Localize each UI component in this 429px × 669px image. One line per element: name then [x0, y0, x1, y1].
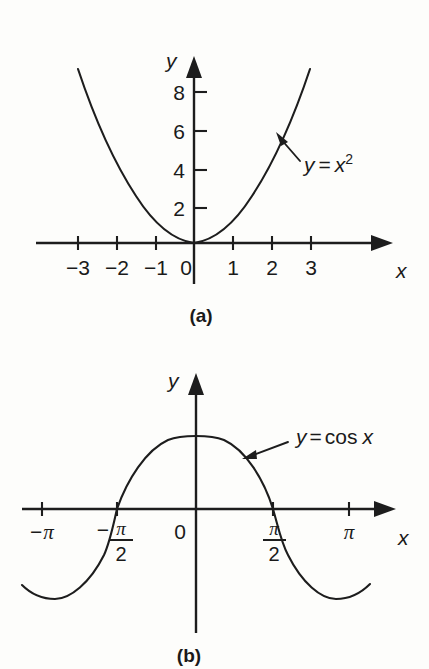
chart-a-svg: y=x2 y x −3 −2 −1 0 1 2 3 2 4 6 8 (a) [0, 26, 429, 326]
svg-text:−: − [97, 518, 109, 541]
y-axis-label-b: y [166, 369, 180, 392]
y-axis-arrowhead-b [188, 373, 204, 395]
y-ticklabel-6-a: 6 [173, 120, 185, 143]
chart-b-svg: y=cosx y x −π − π 2 0 π 2 π [0, 340, 429, 669]
y-ticklabel-2-a: 2 [173, 197, 185, 220]
x-ticklabel-1-a: 1 [227, 256, 239, 279]
x-axis-arrowhead-b [374, 501, 396, 517]
x-ticklabel--2-a: −2 [105, 256, 129, 279]
figure-b-cosine: y=cosx y x −π − π 2 0 π 2 π [0, 340, 429, 669]
annotation-var-b: x [361, 425, 374, 448]
annotation-eq-b: = [310, 425, 322, 448]
x-ticklabel--1-a: −1 [144, 256, 168, 279]
x-ticklabel-0-b: 0 [174, 520, 186, 543]
annotation-lhs-b: y [294, 425, 308, 448]
x-axis-arrowhead-a [371, 235, 393, 251]
panel-label-b: (b) [177, 645, 201, 666]
annotation-eq-a: = [319, 153, 331, 176]
annotation-label-a: y=x2 [302, 151, 353, 176]
x-axis-label-b: x [397, 526, 410, 549]
y-ticklabel-8-a: 8 [173, 81, 185, 104]
svg-text:2: 2 [268, 543, 279, 565]
y-axis-label-a: y [164, 49, 178, 72]
x-ticklabel--3-a: −3 [66, 256, 90, 279]
y-ticklabel-4-a: 4 [173, 159, 185, 182]
x-ticklabel-pi-b: π [344, 520, 355, 544]
panel-label-a: (a) [189, 305, 212, 326]
figure-a-parabola: y=x2 y x −3 −2 −1 0 1 2 3 2 4 6 8 (a) [0, 26, 429, 326]
x-ticklabel-0-a: 0 [180, 256, 192, 279]
svg-text:π: π [116, 518, 126, 539]
x-axis-label-a: x [395, 259, 408, 282]
svg-text:π: π [269, 518, 279, 539]
svg-text:2: 2 [115, 543, 126, 565]
annotation-exponent-a: 2 [345, 151, 353, 167]
annotation-lhs-a: y [302, 153, 316, 176]
figure-page: y=x2 y x −3 −2 −1 0 1 2 3 2 4 6 8 (a) [0, 0, 429, 669]
x-ticklabel--pi-b: −π [30, 520, 54, 544]
x-ticklabel-3-a: 3 [305, 256, 317, 279]
annotation-label-b: y=cosx [294, 425, 374, 448]
y-axis-arrowhead-a [186, 56, 202, 78]
x-ticklabel-2-a: 2 [266, 256, 278, 279]
annotation-cos-b: cos [325, 425, 358, 448]
